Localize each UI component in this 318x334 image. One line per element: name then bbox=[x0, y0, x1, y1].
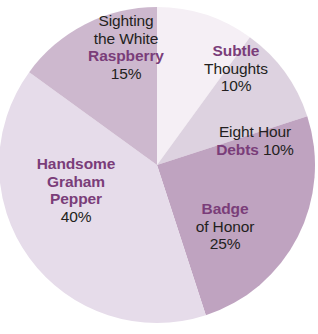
pie-label-handsome-graham-pepper: Handsome Graham Pepper 40% bbox=[16, 155, 136, 225]
pie-label-line: Debts 10% bbox=[198, 141, 312, 159]
pie-label-line: Thoughts bbox=[184, 60, 288, 78]
pie-label-line: Eight Hour bbox=[198, 123, 312, 141]
pie-label-highlight: Handsome bbox=[16, 155, 136, 173]
pie-label-percent: 40% bbox=[16, 208, 136, 226]
pie-label-percent: 25% bbox=[170, 235, 280, 253]
pie-label-subtle-thoughts: Subtle Thoughts 10% bbox=[184, 42, 288, 95]
pie-label-line: of Honor bbox=[170, 218, 280, 236]
pie-label-percent: 10% bbox=[259, 141, 294, 158]
pie-label-line: the White bbox=[66, 30, 186, 48]
pie-label-eight-hour-debts: Eight Hour Debts 10% bbox=[198, 123, 312, 158]
pie-label-highlight: Subtle bbox=[184, 42, 288, 60]
pie-label-highlight: Debts bbox=[216, 141, 259, 158]
pie-label-percent: 10% bbox=[184, 77, 288, 95]
pie-label-highlight: Raspberry bbox=[66, 47, 186, 65]
pie-chart-figure: Sighting the White Raspberry 15% Subtle … bbox=[0, 0, 318, 334]
pie-label-percent: 15% bbox=[66, 65, 186, 83]
pie-label-sighting-the-white-raspberry: Sighting the White Raspberry 15% bbox=[66, 12, 186, 82]
pie-label-badge-of-honor: Badge of Honor 25% bbox=[170, 200, 280, 253]
pie-label-highlight: Badge bbox=[170, 200, 280, 218]
pie-label-highlight: Graham bbox=[16, 173, 136, 191]
pie-label-highlight: Pepper bbox=[16, 190, 136, 208]
pie-label-line: Sighting bbox=[66, 12, 186, 30]
